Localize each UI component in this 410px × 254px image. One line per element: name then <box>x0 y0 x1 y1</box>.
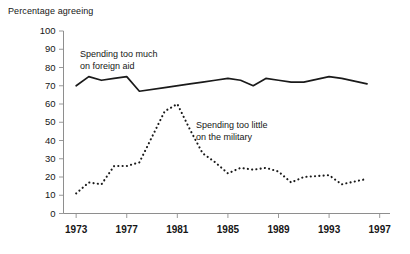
series-line <box>76 104 367 193</box>
series-line <box>76 77 367 92</box>
percentage-agreeing-line-chart: Percentage agreeing 01020304050607080901… <box>0 0 410 254</box>
series-annotation-military: Spending too little on the military <box>196 120 268 143</box>
series-annotation-foreign-aid: Spending too much on foreign aid <box>80 49 158 72</box>
